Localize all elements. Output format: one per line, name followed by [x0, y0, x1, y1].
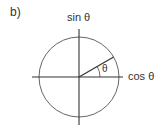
unit-circle-diagram — [0, 0, 159, 130]
angle-arc — [97, 67, 100, 78]
radius-line — [79, 57, 114, 77]
